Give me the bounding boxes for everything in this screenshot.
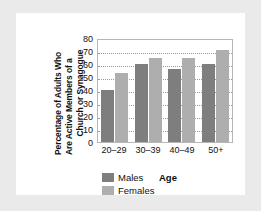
bar-females-0 bbox=[115, 73, 128, 142]
bar-groups bbox=[98, 40, 232, 142]
x-tick-label: 30–39 bbox=[131, 145, 165, 159]
bar-males-0 bbox=[101, 90, 114, 142]
bar-group bbox=[135, 40, 162, 142]
legend-swatch-icon bbox=[102, 186, 114, 195]
bar-males-2 bbox=[168, 69, 181, 142]
y-tick-label: 60 bbox=[83, 61, 93, 70]
y-tick-label: 80 bbox=[83, 35, 93, 44]
bar-group bbox=[101, 40, 128, 142]
y-axis-title: Percentage of Adults Who Are Active Memb… bbox=[42, 31, 76, 155]
plot-area bbox=[97, 39, 233, 143]
legend-label: Females bbox=[118, 185, 154, 196]
y-tick-label: 20 bbox=[83, 113, 93, 122]
x-axis-tick-labels: 20–2930–3940–4950+ bbox=[97, 145, 233, 159]
plot-wrapper: 80706050403020100 20–2930–3940–4950+ bbox=[76, 39, 236, 157]
bar-group bbox=[202, 40, 229, 142]
y-tick-label: 10 bbox=[83, 126, 93, 135]
y-tick-label: 30 bbox=[83, 100, 93, 109]
bar-males-1 bbox=[135, 64, 148, 142]
x-tick-label: 40–49 bbox=[165, 145, 199, 159]
bar-males-3 bbox=[202, 64, 215, 142]
y-tick-label: 70 bbox=[83, 48, 93, 57]
x-tick-label: 50+ bbox=[199, 145, 233, 159]
bar-group bbox=[168, 40, 195, 142]
x-tick-label: 20–29 bbox=[97, 145, 131, 159]
y-axis-tick-labels: 80706050403020100 bbox=[76, 39, 93, 143]
y-tick-label: 0 bbox=[88, 139, 93, 148]
legend-swatch-icon bbox=[102, 173, 114, 182]
bar-females-2 bbox=[182, 58, 195, 143]
bar-females-1 bbox=[149, 58, 162, 143]
figure-container: Percentage of Adults Who Are Active Memb… bbox=[0, 0, 261, 211]
x-axis-title: Age bbox=[159, 172, 177, 183]
bar-females-3 bbox=[216, 50, 229, 142]
y-tick-label: 40 bbox=[83, 87, 93, 96]
legend-item: Females bbox=[102, 184, 172, 197]
y-tick-label: 50 bbox=[83, 74, 93, 83]
chart-panel: Percentage of Adults Who Are Active Memb… bbox=[16, 13, 245, 195]
legend-label: Males bbox=[118, 172, 143, 183]
